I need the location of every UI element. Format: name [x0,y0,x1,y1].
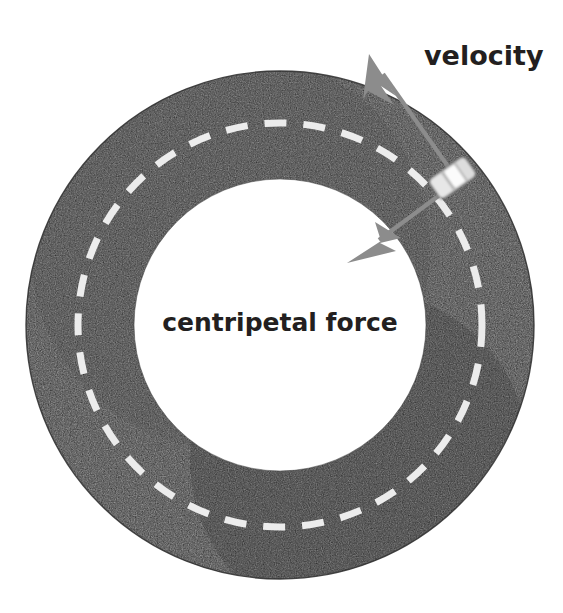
centripetal-force-label: centripetal force [162,308,398,337]
circular-motion-diagram: velocity centripetal force [0,0,563,613]
velocity-label: velocity [424,40,544,71]
